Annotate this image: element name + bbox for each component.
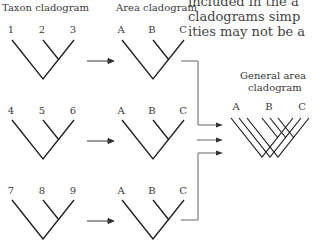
connector-row1 (181, 61, 218, 125)
area-cladogram-row1 (122, 40, 184, 79)
taxon-cladogram-row1 (12, 40, 74, 79)
connector-row3 (181, 153, 218, 220)
arrow-icon-row2 (87, 139, 114, 144)
cladogram-diagram (0, 0, 313, 240)
arrowhead-icon-3 (216, 151, 223, 156)
area-cladogram-row3 (122, 200, 184, 239)
taxon-cladogram-row3 (12, 200, 74, 239)
arrow-icon-row1 (87, 59, 114, 64)
general-area-cladogram (231, 118, 309, 157)
taxon-cladogram-row2 (12, 120, 74, 159)
arrowhead-icon-1 (216, 123, 223, 128)
arrowhead-icon-2 (216, 138, 223, 143)
arrow-icon-row3 (87, 219, 114, 224)
area-cladogram-row2 (122, 120, 184, 159)
